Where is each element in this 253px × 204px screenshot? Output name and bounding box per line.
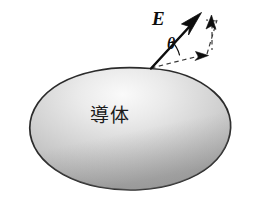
- field-vector-label: E: [152, 9, 165, 28]
- physics-figure: E θ 導体: [0, 0, 253, 204]
- angle-label: θ: [167, 36, 175, 52]
- tangential-arrowhead: [195, 52, 209, 61]
- normal-component-arrow: [206, 15, 216, 30]
- tangential-component-arrow: [195, 52, 209, 61]
- normal-arrowhead: [206, 15, 216, 30]
- conductor-label: 導体: [90, 106, 130, 125]
- conductor-body: [30, 68, 231, 190]
- figure-canvas: [0, 0, 253, 204]
- conductor-shading: [30, 68, 231, 190]
